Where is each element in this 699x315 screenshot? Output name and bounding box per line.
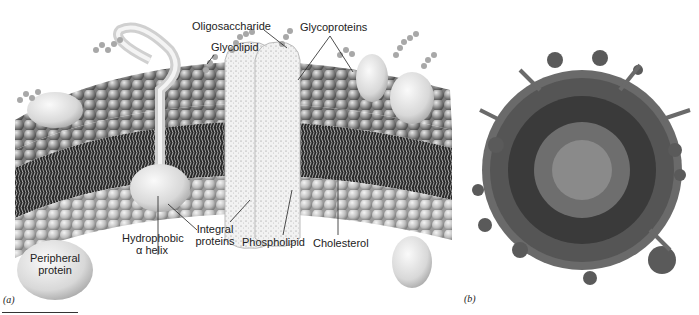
label-peripheral-protein: Peripheral protein [28,252,82,276]
panel-a-tag: (a) [3,294,15,305]
integral-protein-globular [130,164,190,212]
label-helix-line1: Hydrophobic [122,232,182,244]
membrane-figure: Oligosaccharide Glycoproteins Glycolipid… [0,0,699,315]
label-cholesterol: Cholesterol [313,237,369,249]
label-peripheral-line1: Peripheral [28,252,82,264]
label-glycoproteins: Glycoproteins [300,21,367,33]
footnote-rule [2,312,78,313]
label-peripheral-line2: protein [28,264,82,276]
vesicle-model [472,50,690,285]
label-hydrophobic-helix: Hydrophobic α helix [122,232,182,256]
label-integral-line2: proteins [193,235,237,247]
panel-b-tag: (b) [464,293,476,304]
label-glycolipid: Glycolipid [211,41,259,53]
label-oligosaccharide: Oligosaccharide [192,20,271,32]
label-helix-line2: α helix [122,244,182,256]
label-integral-line1: Integral [193,223,237,235]
membrane-illustration [0,0,699,315]
label-integral-proteins: Integral proteins [193,223,237,247]
label-phospholipid: Phospholipid [242,236,305,248]
